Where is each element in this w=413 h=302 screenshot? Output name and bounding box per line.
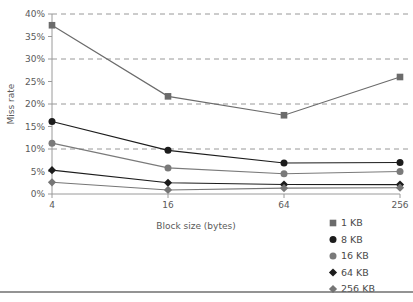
data-series-group [48,22,404,194]
y-tick-label-5: 5% [31,167,46,177]
y-tick-label-0: 0% [31,189,46,199]
legend-marker-circle [330,253,337,260]
legend-label: 64 KB [341,267,369,278]
data-point-4 [49,140,56,147]
data-point-256 [397,74,404,81]
legend-label: 8 KB [341,234,363,245]
series-line [52,143,400,174]
y-axis: 0%5%10%15%20%25%30%35%40% [25,9,52,199]
y-tick-label-30: 30% [25,54,45,64]
data-point-4 [49,118,56,125]
y-tick-label-10: 10% [25,144,45,154]
legend-item-16-kb[interactable]: 16 KB [330,250,369,261]
legend-marker-circle [330,236,337,243]
gridlines [52,14,409,149]
x-tick-label-4: 4 [49,200,55,210]
series-line [52,122,400,163]
series-16-kb [49,140,404,178]
data-point-256 [397,159,404,166]
data-point-64 [281,112,288,119]
series-256-kb [48,178,404,194]
y-tick-label-40: 40% [25,9,45,19]
data-point-64 [281,159,288,166]
legend-marker-square [330,220,337,227]
x-axis: 41664256 [49,194,409,210]
chart-legend: 1 KB8 KB16 KB64 KB256 KB [329,217,375,294]
y-tick-label-35: 35% [25,32,45,42]
x-axis-title: Block size (bytes) [156,221,235,231]
legend-label: 1 KB [341,217,363,228]
x-tick-label-16: 16 [162,200,174,210]
y-tick-label-20: 20% [25,99,45,109]
y-tick-label-15: 15% [25,122,45,132]
miss-rate-line-chart: 0%5%10%15%20%25%30%35%40% 41664256 Miss … [0,0,413,302]
y-axis-title: Miss rate [6,83,16,124]
data-point-16 [165,147,172,154]
y-tick-label-25: 25% [25,77,45,87]
series-8-kb [49,118,404,166]
x-tick-label-64: 64 [278,200,290,210]
data-point-16 [164,179,172,187]
x-axis-ticks [52,194,400,198]
data-point-16 [164,186,172,194]
data-point-16 [165,93,172,100]
legend-marker-diamond [329,268,337,276]
data-point-4 [49,22,56,29]
data-point-4 [48,178,56,186]
x-tick-label-256: 256 [391,200,408,210]
data-point-256 [397,168,404,175]
data-point-16 [165,164,172,171]
y-axis-tick-labels: 0%5%10%15%20%25%30%35%40% [25,9,45,199]
x-axis-tick-labels: 41664256 [49,200,409,210]
data-point-4 [48,166,56,174]
legend-item-64-kb[interactable]: 64 KB [329,267,369,278]
series-line [52,25,400,115]
chart-figure: 0%5%10%15%20%25%30%35%40% 41664256 Miss … [0,0,413,302]
legend-item-1-kb[interactable]: 1 KB [330,217,363,228]
legend-label: 16 KB [341,250,369,261]
data-point-64 [281,170,288,177]
legend-item-8-kb[interactable]: 8 KB [330,234,363,245]
